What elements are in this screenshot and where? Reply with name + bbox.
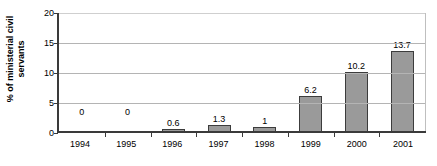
y-tick-mark-0 — [54, 133, 58, 134]
bar-value-label-1996: 0.6 — [167, 118, 180, 128]
y-axis-tick-label: 20 — [44, 8, 54, 18]
x-axis-tick-label-1995: 1995 — [103, 139, 149, 155]
gridline-10 — [59, 73, 425, 74]
x-axis-line — [57, 131, 426, 133]
x-tick-mark — [334, 133, 335, 137]
bar-value-label-2001: 13.7 — [393, 40, 411, 50]
bar-value-label-2000: 10.2 — [348, 61, 366, 71]
bar-chart-figure: % of ministerial civil servants 000.61.3… — [0, 0, 437, 166]
bar-value-label-1998: 1 — [262, 116, 267, 126]
bar-value-label-1995: 0 — [125, 107, 130, 117]
y-tick-mark-20 — [54, 13, 58, 14]
y-tick-mark-5 — [54, 103, 58, 104]
x-tick-mark — [379, 133, 380, 137]
y-axis-tick-label: 10 — [44, 68, 54, 78]
x-axis-tick-label-1999: 1999 — [288, 139, 334, 155]
bar-value-label-1999: 6.2 — [304, 85, 317, 95]
y-axis-title-container: % of ministerial civil servants — [0, 0, 30, 145]
y-tick-mark-10 — [54, 73, 58, 74]
x-tick-mark — [105, 133, 106, 137]
bar-1999[interactable]: 6.2 — [299, 96, 322, 133]
gridline-5 — [59, 103, 425, 104]
x-axis-tick-label-1997: 1997 — [195, 139, 241, 155]
x-axis-tick-label-2000: 2000 — [334, 139, 380, 155]
x-axis-tick-label-2001: 2001 — [380, 139, 426, 155]
gridline-15 — [59, 43, 425, 44]
x-axis-tick-label-1996: 1996 — [149, 139, 195, 155]
y-axis-tick-label: 15 — [44, 38, 54, 48]
x-tick-mark — [242, 133, 243, 137]
y-axis-tick-label: 5 — [49, 98, 54, 108]
x-axis-tick-label-1994: 1994 — [57, 139, 103, 155]
bar-value-label-1997: 1.3 — [213, 114, 226, 124]
bar-value-label-1994: 0 — [79, 107, 84, 117]
x-axis-tick-labels: 19941995199619971998199920002001 — [57, 139, 426, 155]
plot-area: 000.61.316.210.213.7 05101520 — [57, 13, 426, 133]
bar-2001[interactable]: 13.7 — [391, 51, 414, 133]
x-axis-tick-label-1998: 1998 — [242, 139, 288, 155]
y-axis-tick-label: 0 — [49, 128, 54, 138]
gridline-20 — [59, 13, 425, 14]
x-tick-mark — [196, 133, 197, 137]
y-tick-mark-15 — [54, 43, 58, 44]
y-axis-title: % of ministerial civil servants — [1, 0, 31, 132]
x-tick-mark — [288, 133, 289, 137]
x-tick-mark — [151, 133, 152, 137]
